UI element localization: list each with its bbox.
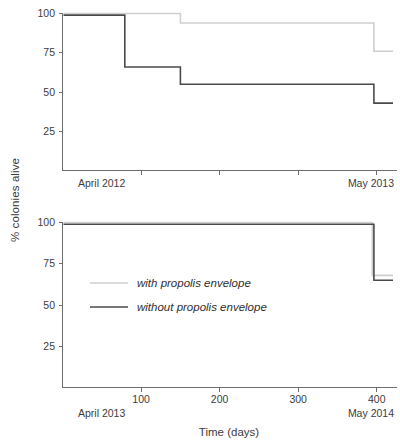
panel-top-ytick-100: 100 xyxy=(37,7,55,19)
panel-bottom-start-date: April 2013 xyxy=(78,407,125,419)
panel-top-ytick-50: 50 xyxy=(43,86,55,98)
panel-bottom-xtick-200: 200 xyxy=(211,393,229,405)
panel-top-ytick-25: 25 xyxy=(43,125,55,137)
panel-top-series-with-propolis xyxy=(64,14,394,52)
panel-bottom: 100 75 50 25 100 200 300 400 April 2013 … xyxy=(37,216,396,438)
legend-label-with-propolis: with propolis envelope xyxy=(137,277,251,289)
panel-top-start-date: April 2012 xyxy=(78,177,125,189)
panel-top-series-without-propolis xyxy=(64,15,394,103)
panel-bottom-ytick-25: 25 xyxy=(43,340,55,352)
legend-item-without-propolis: without propolis envelope xyxy=(90,301,267,313)
panel-top-y-ticks xyxy=(59,14,63,132)
panel-bottom-xtick-300: 300 xyxy=(289,393,307,405)
legend-item-with-propolis: with propolis envelope xyxy=(90,277,251,289)
panel-top: 100 75 50 25 April 2012 May 2013 xyxy=(37,7,396,189)
panel-bottom-xtick-100: 100 xyxy=(132,393,150,405)
panel-bottom-xtick-400: 400 xyxy=(368,393,386,405)
panel-top-end-date: May 2013 xyxy=(348,177,394,189)
panel-bottom-series-without-propolis xyxy=(64,224,394,280)
panel-top-ytick-75: 75 xyxy=(43,46,55,58)
panel-top-x-ticks xyxy=(141,171,377,175)
panel-bottom-end-date: May 2014 xyxy=(348,407,394,419)
x-axis-title: Time (days) xyxy=(199,426,259,438)
panel-bottom-x-ticks xyxy=(141,388,377,392)
panel-bottom-ytick-50: 50 xyxy=(43,299,55,311)
legend-label-without-propolis: without propolis envelope xyxy=(137,301,267,313)
panel-bottom-ytick-75: 75 xyxy=(43,257,55,269)
legend: with propolis envelope without propolis … xyxy=(90,277,267,313)
survival-curve-figure: % colonies alive 100 75 50 25 xyxy=(0,0,400,443)
chart-svg: 100 75 50 25 April 2012 May 2013 xyxy=(0,0,400,443)
panel-bottom-series-with-propolis xyxy=(64,223,394,276)
panel-bottom-ytick-100: 100 xyxy=(37,216,55,228)
panel-top-axes xyxy=(63,14,397,171)
panel-bottom-y-ticks xyxy=(59,223,63,347)
